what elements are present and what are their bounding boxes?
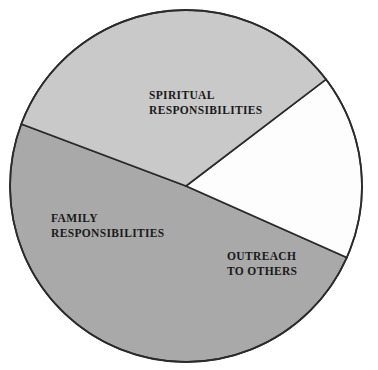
pie-slices — [10, 10, 362, 362]
pie-chart-canvas — [0, 0, 378, 370]
pie-chart-figure: SPIRITUAL RESPONSIBILITIES FAMILY RESPON… — [0, 0, 378, 370]
